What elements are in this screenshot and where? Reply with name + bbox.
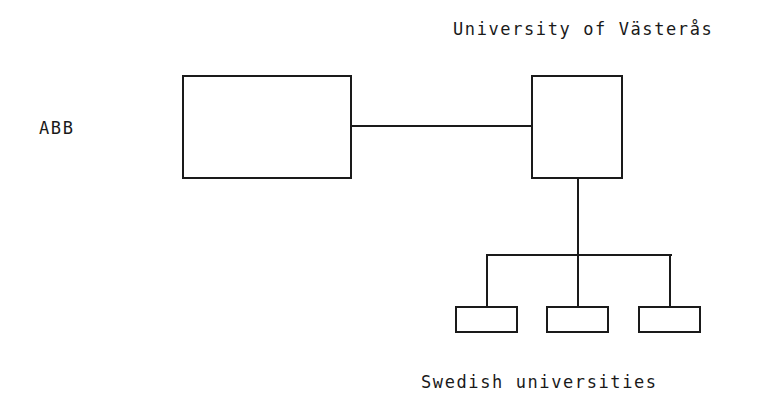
middle-drop-connector [577,254,579,307]
universities-bus-connector [486,254,672,256]
swedish-university-box-3 [638,306,701,333]
abb-university-connector [351,125,533,127]
swedish-universities-label: Swedish universities [421,374,658,391]
abb-label: ABB [39,120,75,137]
swedish-university-box-2 [546,306,609,333]
university-box [531,75,623,179]
abb-box [182,75,352,179]
swedish-university-box-1 [455,306,518,333]
university-stem-connector [577,178,579,256]
right-drop-connector [669,254,671,307]
university-label: University of Västerås [453,21,713,38]
left-drop-connector [486,254,488,307]
